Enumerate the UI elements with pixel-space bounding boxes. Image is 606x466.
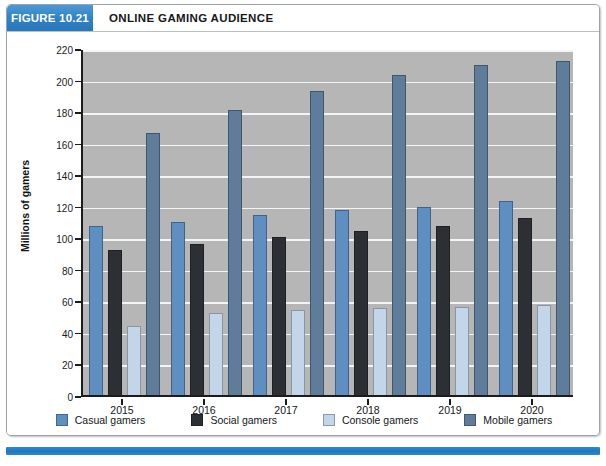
chart-area: Millions of gamers 020406080100120140160…	[7, 32, 600, 436]
bar-mobile-2016	[228, 110, 242, 395]
bar-social-2015	[108, 250, 122, 395]
legend-item-casual[interactable]: Casual gamers	[56, 414, 146, 426]
x-tick-mark-2015	[121, 399, 123, 405]
bar-social-2017	[272, 237, 286, 395]
y-tick-label: 60	[33, 297, 73, 308]
y-tick-mark	[75, 112, 81, 114]
bar-mobile-2020	[556, 61, 570, 395]
y-tick-label: 220	[33, 45, 73, 56]
x-tick-mark-2017	[285, 399, 287, 405]
bar-social-2018	[354, 231, 368, 395]
bar-casual-2015	[89, 226, 103, 395]
y-tick-mark	[75, 301, 81, 303]
bar-social-2019	[436, 226, 450, 395]
bar-casual-2020	[499, 201, 513, 395]
figure-title: ONLINE GAMING AUDIENCE	[93, 5, 600, 31]
legend-swatch-icon	[464, 414, 476, 426]
y-tick-label: 100	[33, 234, 73, 245]
y-tick-mark	[75, 144, 81, 146]
y-tick-mark	[75, 333, 81, 335]
plot-inner	[83, 50, 573, 395]
plot-box	[81, 50, 573, 397]
legend-label: Casual gamers	[75, 414, 146, 426]
y-tick-mark	[75, 238, 81, 240]
y-tick-mark	[75, 207, 81, 209]
y-tick-mark	[75, 364, 81, 366]
legend-label: Mobile gamers	[483, 414, 552, 426]
bar-group-2016	[165, 50, 247, 395]
figure-card: FIGURE 10.21 ONLINE GAMING AUDIENCE Mill…	[6, 4, 600, 436]
figure-screenshot: FIGURE 10.21 ONLINE GAMING AUDIENCE Mill…	[0, 0, 606, 466]
y-tick-label: 80	[33, 265, 73, 276]
y-axis-title: Millions of gamers	[19, 126, 31, 286]
bar-mobile-2017	[310, 91, 324, 395]
bar-console-2017	[291, 310, 305, 395]
y-tick-label: 140	[33, 171, 73, 182]
bar-console-2018	[373, 308, 387, 395]
legend-item-console[interactable]: Console gamers	[323, 414, 418, 426]
bar-group-2019	[411, 50, 493, 395]
bar-casual-2017	[253, 215, 267, 395]
legend-label: Console gamers	[342, 414, 418, 426]
bar-mobile-2015	[146, 133, 160, 395]
bar-casual-2019	[417, 207, 431, 395]
legend-swatch-icon	[56, 414, 68, 426]
y-tick-label: 40	[33, 328, 73, 339]
bar-console-2016	[209, 313, 223, 395]
bottom-accent-rule	[6, 447, 600, 455]
legend-item-social[interactable]: Social gamers	[191, 414, 277, 426]
y-tick-label: 180	[33, 108, 73, 119]
y-tick-label: 160	[33, 139, 73, 150]
bar-group-2020	[493, 50, 573, 395]
y-tick-mark	[75, 175, 81, 177]
y-tick-label: 0	[33, 392, 73, 403]
x-tick-mark-2018	[367, 399, 369, 405]
legend-item-mobile[interactable]: Mobile gamers	[464, 414, 552, 426]
x-tick-mark-2019	[449, 399, 451, 405]
bar-group-2017	[247, 50, 329, 395]
bar-group-2018	[329, 50, 411, 395]
y-tick-label: 200	[33, 76, 73, 87]
y-tick-mark	[75, 49, 81, 51]
x-tick-mark-2016	[203, 399, 205, 405]
y-tick-mark	[75, 270, 81, 272]
bar-mobile-2019	[474, 65, 488, 395]
y-tick-label: 120	[33, 202, 73, 213]
figure-header: FIGURE 10.21 ONLINE GAMING AUDIENCE	[7, 5, 600, 32]
bar-console-2015	[127, 326, 141, 395]
bar-group-2015	[83, 50, 165, 395]
bar-console-2020	[537, 305, 551, 395]
bar-console-2019	[455, 307, 469, 395]
legend-swatch-icon	[191, 414, 203, 426]
figure-number-badge: FIGURE 10.21	[7, 5, 93, 31]
chart-legend: Casual gamersSocial gamersConsole gamers…	[7, 414, 600, 426]
y-tick-mark	[75, 81, 81, 83]
bar-social-2016	[190, 244, 204, 395]
legend-label: Social gamers	[210, 414, 277, 426]
bar-mobile-2018	[392, 75, 406, 395]
legend-swatch-icon	[323, 414, 335, 426]
bar-casual-2018	[335, 210, 349, 395]
bar-social-2020	[518, 218, 532, 395]
x-tick-mark-2020	[531, 399, 533, 405]
bar-casual-2016	[171, 222, 185, 396]
y-tick-label: 20	[33, 360, 73, 371]
y-tick-mark	[75, 396, 81, 398]
